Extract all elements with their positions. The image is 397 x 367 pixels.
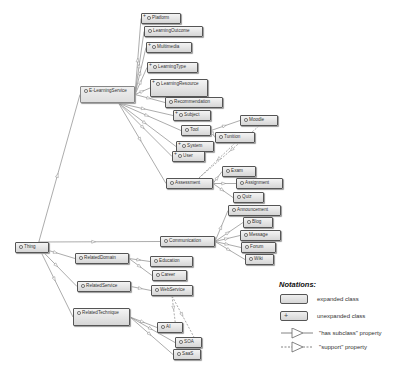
class-circle-icon <box>177 352 181 356</box>
class-label: LearningType <box>158 64 186 69</box>
class-circle-icon <box>19 245 23 249</box>
class-circle-icon <box>179 113 183 117</box>
class-label: RelatedDomain <box>84 255 116 260</box>
class-node-blog[interactable]: Blog <box>243 217 273 228</box>
arrow-icon <box>138 137 141 141</box>
class-label: LearningResource <box>161 81 199 86</box>
arrow-icon <box>137 64 140 68</box>
expand-plus-icon[interactable]: + <box>175 110 178 116</box>
class-circle-icon <box>244 118 248 122</box>
class-node-assignment[interactable]: Assignment <box>236 178 283 189</box>
legend: Notations: expanded class + unexpanded c… <box>279 280 397 360</box>
arrow-icon <box>211 132 214 136</box>
class-label: RelatedService <box>86 283 117 288</box>
class-node-thing[interactable]: Thing <box>15 242 49 253</box>
class-node-platform[interactable]: +Platform <box>141 13 181 24</box>
expand-plus-icon[interactable]: + <box>174 151 177 157</box>
class-node-webservice[interactable]: WebService <box>151 285 193 296</box>
class-node-multimedia[interactable]: +Multimedia <box>146 42 192 53</box>
legend-unexpanded-swatch: + <box>280 311 308 321</box>
class-node-subject[interactable]: +Subject <box>173 110 211 121</box>
arrow-icon <box>137 258 141 261</box>
class-circle-icon <box>161 325 165 329</box>
class-node-soa[interactable]: SOA <box>175 337 202 348</box>
class-node-quiz[interactable]: Quiz <box>233 192 264 203</box>
class-node-forum[interactable]: Forum <box>241 242 276 253</box>
class-node-relateddomain[interactable]: RelatedDomain <box>75 253 129 264</box>
class-node-ai[interactable]: AI <box>157 322 183 333</box>
arrow-icon <box>138 287 142 290</box>
class-node-communication[interactable]: Communication <box>160 236 215 247</box>
class-node-exam[interactable]: Exam <box>222 166 256 177</box>
legend-title: Notations: <box>279 280 316 289</box>
class-node-assessment[interactable]: Assessment <box>166 178 213 189</box>
class-label: Assignment <box>245 180 269 185</box>
class-label: Multimedia <box>157 44 179 49</box>
class-node-learningresource[interactable]: +LearningResource <box>150 79 208 97</box>
arrow-icon <box>141 107 145 110</box>
class-node-elearningservice[interactable]: E-LearningService <box>80 86 135 103</box>
class-circle-icon <box>164 239 168 243</box>
class-node-moodle[interactable]: Moodle <box>240 115 278 126</box>
class-circle-icon <box>232 208 236 212</box>
class-circle-icon <box>153 65 157 69</box>
class-node-message[interactable]: Message <box>240 230 281 241</box>
class-circle-icon <box>170 181 174 185</box>
arrow-icon <box>225 242 229 245</box>
class-node-user[interactable]: +User <box>172 151 205 162</box>
class-circle-icon <box>249 257 253 261</box>
subclass-arrow-icon <box>281 328 313 338</box>
class-label: Education <box>159 258 179 263</box>
expand-plus-icon[interactable]: + <box>148 42 151 48</box>
class-node-saas[interactable]: SaaS <box>173 349 201 360</box>
class-circle-icon <box>178 154 182 158</box>
expand-plus-icon[interactable]: + <box>178 141 181 147</box>
legend-expanded-label: expanded class <box>317 296 359 302</box>
expand-plus-icon[interactable]: + <box>143 13 146 19</box>
arrow-icon <box>226 247 230 250</box>
class-node-tunition[interactable]: Tunition <box>215 132 255 143</box>
class-label: Tool <box>190 127 198 132</box>
class-node-recommendation[interactable]: Recommendation <box>165 97 223 108</box>
class-node-relatedservice[interactable]: RelatedService <box>77 281 131 292</box>
arrow-icon <box>136 58 139 62</box>
class-circle-icon <box>237 195 241 199</box>
class-label: Subject <box>184 112 199 117</box>
class-label: Quiz <box>242 194 251 199</box>
arrow-icon <box>138 80 141 84</box>
expand-plus-icon[interactable]: + <box>152 79 155 85</box>
subclass-edge <box>39 248 73 318</box>
class-node-relatedtechnique[interactable]: RelatedTechnique <box>73 308 130 326</box>
class-circle-icon <box>179 340 183 344</box>
class-node-learningtype[interactable]: +LearningType <box>147 62 198 73</box>
class-label: SaaS <box>182 351 193 356</box>
class-circle-icon <box>219 135 223 139</box>
arrow-icon <box>215 176 218 180</box>
class-node-career[interactable]: Career <box>152 270 187 281</box>
arrow-icon <box>148 326 152 329</box>
class-node-wiki[interactable]: Wiki <box>245 254 274 265</box>
expand-plus-icon[interactable]: + <box>149 62 152 68</box>
arrow-icon <box>222 182 226 185</box>
arrow-icon <box>140 91 144 94</box>
class-circle-icon <box>244 233 248 237</box>
class-node-learningoutcome[interactable]: LearningOutcome <box>144 26 203 37</box>
class-circle-icon <box>77 311 81 315</box>
class-circle-icon <box>84 89 88 93</box>
arrow-icon <box>222 125 226 128</box>
class-circle-icon <box>169 100 173 104</box>
class-label: AI <box>166 324 170 329</box>
class-label: Moodle <box>249 117 264 122</box>
class-label: Message <box>249 232 268 237</box>
class-node-announcement[interactable]: Announcement <box>228 205 281 216</box>
arrow-icon <box>53 251 57 254</box>
class-label: Announcement <box>237 207 268 212</box>
class-label: Thing <box>24 244 36 249</box>
class-node-tool[interactable]: Tool <box>181 125 211 136</box>
class-label: E-LearningService <box>89 88 127 93</box>
class-label: Platform <box>152 15 169 20</box>
class-label: Career <box>161 272 175 277</box>
class-label: System <box>187 143 202 148</box>
class-node-education[interactable]: Education <box>150 256 193 267</box>
arrow-icon <box>92 240 96 243</box>
